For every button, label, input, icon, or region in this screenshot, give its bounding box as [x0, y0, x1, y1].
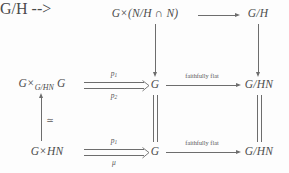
node-mid-right: G/HN [245, 79, 273, 91]
arrow-bottom-flat-head [236, 150, 241, 154]
arrow-label-mid-faithfully-flat: faithfully flat [185, 73, 218, 79]
arrow-top-row-line [198, 15, 236, 16]
arrow-mid-flat-line [166, 85, 238, 86]
arrow-mid-parallel-lower-line [84, 88, 144, 89]
equality-right-right-line [261, 95, 262, 142]
arrow-center-vertical-head [153, 72, 157, 77]
arrow-mid-parallel-head [142, 80, 148, 91]
arrow-top-row-head [235, 13, 240, 17]
node-top-left-rest: (N/H ∩ N) [128, 7, 178, 19]
node-bottom-center: G [151, 146, 160, 158]
arrow-right-vertical-head [256, 72, 260, 77]
arrow-right-vertical-line [258, 24, 259, 74]
equality-center-left-line [153, 95, 154, 142]
node-top-right: G/H [248, 8, 268, 20]
node-top-left-main: G [112, 7, 121, 19]
arrow-bottom-parallel-head [142, 147, 148, 158]
arrow-bottom-parallel-lower-line [84, 155, 144, 156]
arrow-center-vertical-line [155, 24, 156, 74]
node-mid-left-subscript: G/HN [35, 83, 54, 92]
node-mid-left: G×G/HN G [19, 78, 66, 91]
arrow-bottom-parallel-upper-line [84, 149, 144, 150]
commutative-diagram: G×(N/H ∩ N) G/H G/H --> G×G/HN G G G/HN … [0, 0, 289, 173]
p-subscript: 1 [115, 139, 118, 145]
arrow-mid-parallel-upper-line [84, 82, 144, 83]
node-bottom-left: G×HN [31, 146, 64, 158]
arrow-iso-vertical-head [39, 93, 43, 98]
node-mid-center: G [151, 79, 160, 91]
equality-center-right-line [157, 95, 158, 142]
equality-right-left-line [257, 95, 258, 142]
arrow-bottom-flat-line [166, 152, 238, 153]
p-subscript: 2 [115, 94, 118, 100]
p-subscript: 1 [115, 72, 118, 78]
node-bottom-left-lead: G [31, 145, 40, 157]
arrow-label-bottom-mu: μ [112, 159, 116, 167]
arrow-label-bottom-p1: p1 [111, 137, 117, 146]
arrow-mid-flat-head [236, 83, 241, 87]
node-bottom-left-tail: HN [47, 145, 63, 157]
node-bottom-right: G/HN [245, 146, 273, 158]
node-top-left: G×(N/H ∩ N) [112, 8, 179, 20]
arrow-label-bottom-faithfully-flat: faithfully flat [185, 140, 218, 146]
node-mid-left-lead: G [19, 77, 28, 89]
arrow-label-iso: ≃ [46, 116, 54, 125]
arrow-label-mid-p2: p2 [111, 92, 117, 101]
arrow-label-mid-p1: p1 [111, 70, 117, 79]
node-mid-left-tail: G [57, 77, 66, 89]
arrow-iso-vertical-line [41, 97, 42, 141]
